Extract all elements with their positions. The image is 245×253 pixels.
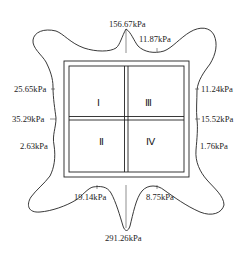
label-bottom-right: 8.75kPa (146, 192, 174, 202)
label-top-right: 11.87kPa (139, 34, 171, 44)
label-top-peak: 156.67kPa (109, 19, 146, 29)
outer-frame (64, 61, 189, 177)
pressure-diagram: Ⅰ Ⅲ Ⅱ Ⅳ 156.67kPa 11.87kPa 25.65kPa 35.2… (0, 0, 245, 253)
quadrant-label-3: Ⅲ (145, 97, 152, 108)
label-bottom-peak: 291.26kPa (105, 233, 142, 243)
label-left-upper: 25.65kPa (14, 84, 46, 94)
label-bottom-left: 19.14kPa (74, 192, 106, 202)
label-right-middle: 15.52kPa (201, 114, 233, 124)
quadrant-label-1: Ⅰ (97, 97, 100, 108)
quadrant-label-2: Ⅱ (99, 136, 104, 147)
quadrant-label-4: Ⅳ (146, 136, 156, 147)
label-right-lower: 1.76kPa (200, 141, 228, 151)
label-left-lower: 2.63kPa (20, 141, 48, 151)
inner-frame (69, 66, 184, 172)
label-right-upper: 11.24kPa (201, 84, 233, 94)
label-left-middle: 35.29kPa (12, 114, 44, 124)
